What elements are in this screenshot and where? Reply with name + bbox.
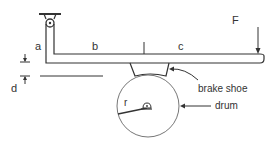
label-brake-shoe: brake shoe (198, 83, 248, 94)
label-a: a (35, 40, 42, 52)
label-d: d (11, 82, 17, 94)
diagram-canvas: a b c d F r brake shoe drum (0, 0, 267, 147)
brake-shoe-leader (169, 67, 198, 81)
lever (46, 24, 264, 63)
brake-shoe (130, 63, 169, 76)
label-force: F (232, 14, 239, 26)
force-arrow (256, 27, 261, 54)
drum-leader (180, 104, 211, 109)
label-c: c (178, 40, 184, 52)
gap-dimension (20, 54, 30, 84)
brake-diagram: a b c d F r brake shoe drum (0, 0, 267, 147)
label-radius: r (124, 97, 128, 108)
label-drum: drum (215, 100, 238, 111)
label-b: b (92, 40, 98, 52)
pivot-support (39, 14, 61, 27)
